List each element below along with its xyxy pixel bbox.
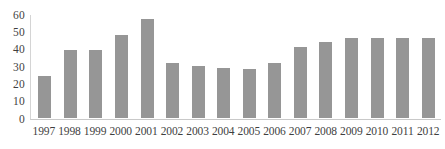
bar-slot (415, 15, 441, 118)
bar-slot (237, 15, 263, 118)
bar (319, 42, 332, 118)
x-axis: 1997199819992000200120022003200420052006… (31, 124, 441, 144)
bar-slot (185, 15, 211, 118)
bar (64, 50, 77, 118)
bar-slot (160, 15, 186, 118)
y-axis: 0102030405060 (0, 0, 28, 149)
x-tick-label: 2009 (339, 124, 365, 144)
x-tick-label: 2011 (390, 124, 416, 144)
bar (115, 35, 128, 118)
y-tick-label: 10 (13, 96, 25, 107)
y-tick-label: 0 (19, 114, 25, 125)
bar (396, 38, 409, 118)
bar (422, 38, 435, 118)
bar-slot (390, 15, 416, 118)
bar (294, 47, 307, 118)
bars-layer (32, 15, 441, 118)
x-tick-label: 2004 (210, 124, 236, 144)
x-tick-label: 2000 (108, 124, 134, 144)
bar (166, 63, 179, 118)
y-tick-label: 20 (13, 79, 25, 90)
x-tick-label: 1999 (82, 124, 108, 144)
y-tick-label: 50 (13, 27, 25, 38)
y-tick-label: 60 (13, 10, 25, 21)
bar (89, 50, 102, 118)
y-tick-label: 30 (13, 62, 25, 73)
x-tick-label: 2008 (313, 124, 339, 144)
x-tick-label: 1997 (31, 124, 57, 144)
bar-slot (364, 15, 390, 118)
bar (192, 66, 205, 118)
y-tick-label: 40 (13, 44, 25, 55)
x-tick-label: 2007 (287, 124, 313, 144)
bar (141, 19, 154, 118)
bar-slot (32, 15, 58, 118)
x-tick-label: 2005 (236, 124, 262, 144)
x-tick-label: 1998 (57, 124, 83, 144)
bar-slot (58, 15, 84, 118)
x-tick-label: 2003 (185, 124, 211, 144)
bar-slot (83, 15, 109, 118)
x-tick-label: 2010 (364, 124, 390, 144)
plot-area (30, 15, 441, 120)
bar (371, 38, 384, 118)
x-tick-label: 2006 (262, 124, 288, 144)
bar-slot (211, 15, 237, 118)
bar-slot (313, 15, 339, 118)
bar-slot (339, 15, 365, 118)
x-tick-label: 2012 (415, 124, 441, 144)
x-tick-label: 2002 (159, 124, 185, 144)
bar (243, 69, 256, 118)
bar-slot (288, 15, 314, 118)
bar-slot (262, 15, 288, 118)
bar (217, 68, 230, 118)
bar (38, 76, 51, 118)
bar (268, 63, 281, 118)
bar-slot (109, 15, 135, 118)
bar-slot (134, 15, 160, 118)
x-tick-label: 2001 (134, 124, 160, 144)
bar (345, 38, 358, 118)
bar-chart: 0102030405060 19971998199920002001200220… (0, 0, 445, 149)
